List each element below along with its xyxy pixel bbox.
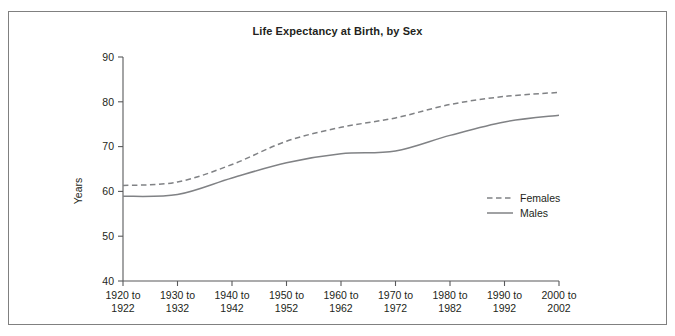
legend-label-females: Females [520, 192, 560, 204]
x-axis-tick-label: 1960 to1962 [323, 289, 358, 314]
y-axis-tick-label: 40 [102, 275, 114, 287]
x-axis-tick-label: 1950 to1952 [269, 289, 304, 314]
series-line-females [123, 92, 559, 185]
x-axis-tick-label: 2000 to2002 [541, 289, 576, 314]
chart-figure: Life Expectancy at Birth, by Sex 4050607… [8, 11, 667, 325]
x-axis-tick-label: 1980 to1982 [432, 289, 467, 314]
y-axis-tick-label: 60 [102, 185, 114, 197]
x-axis-tick-label: 1990 to1992 [487, 289, 522, 314]
y-axis-tick-label: 80 [102, 96, 114, 108]
line-chart-plot: 405060708090Years1920 to19221930 to19321… [9, 12, 668, 326]
x-axis-tick-label: 1920 to1922 [105, 289, 140, 314]
y-axis-tick-label: 50 [102, 230, 114, 242]
x-axis-tick-label: 1930 to1932 [160, 289, 195, 314]
legend-label-males: Males [520, 207, 548, 219]
x-axis-tick-label: 1940 to1942 [214, 289, 249, 314]
y-axis-tick-label: 70 [102, 140, 114, 152]
y-axis-title: Years [72, 178, 84, 204]
x-axis-tick-label: 1970 to1972 [378, 289, 413, 314]
y-axis-tick-label: 90 [102, 51, 114, 63]
